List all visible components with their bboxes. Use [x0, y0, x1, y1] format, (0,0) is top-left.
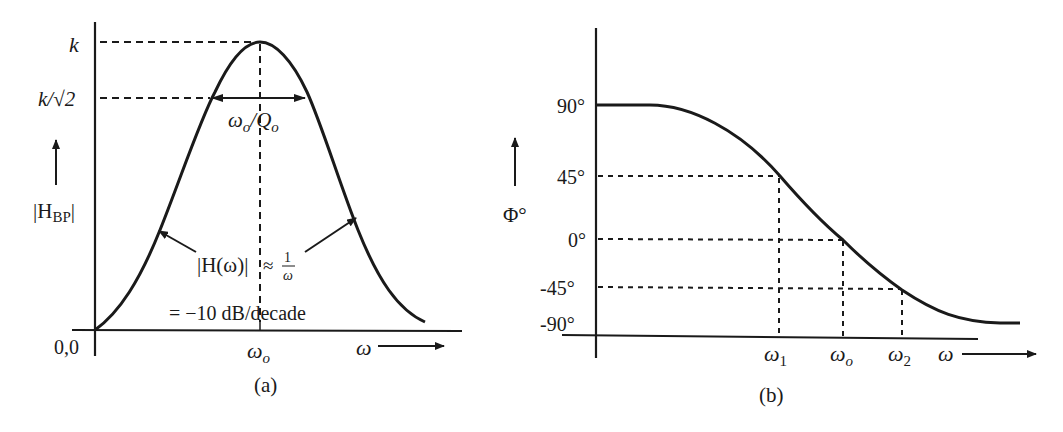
panel-a-slope-formula-denominator: ω — [283, 268, 293, 283]
panel-b-x-axis — [562, 335, 978, 339]
panel-a-tick-k-sqrt2: k/√2 — [38, 87, 76, 111]
panel-b-y-axis-label: Φ° — [503, 203, 527, 227]
panel-b-tick-m45: -45° — [540, 277, 575, 299]
panel-b-caption: (b) — [759, 383, 784, 407]
panel-a-slope-formula-approx: ≈ — [263, 255, 273, 276]
panel-a-y-label: |HBP| — [33, 199, 75, 225]
panel-a-x-axis — [72, 330, 462, 331]
panel-a-right-slope-arrow — [305, 218, 356, 252]
panel-b-x-tick-omega2: ω2 — [888, 341, 911, 369]
panel-a-caption: (a) — [254, 373, 277, 397]
panel-b-x-axis-label: ω — [938, 341, 954, 366]
panel-a-slope-formula: |H(ω)| ≈ 1 ω — [197, 250, 295, 283]
panel-a-bandwidth-label: ωo/Qo — [228, 108, 279, 135]
panel-a-origin-label: 0,0 — [54, 336, 79, 358]
panel-b-m45-dashed-line — [598, 287, 900, 289]
panel-b-tick-90: 90° — [557, 95, 585, 117]
panel-a-x-axis-label: ω — [356, 335, 372, 360]
panel-b-phase: Φ° 90° 45° 0° -45° -90° ω1 ωo ω2 ω (b) — [503, 28, 1036, 407]
panel-b-x-tick-omega1: ω1 — [764, 341, 787, 369]
panel-b-tick-45: 45° — [557, 166, 585, 188]
panel-a-tick-k: k — [69, 32, 80, 57]
panel-a-x-tick-omega-o: ωo — [247, 338, 271, 366]
panel-b-phase-curve — [597, 105, 1020, 323]
panel-a-left-slope-arrow — [159, 231, 196, 252]
panel-a-slope-formula-numerator: 1 — [284, 250, 291, 265]
panel-b-tick-0: 0° — [568, 229, 586, 251]
panel-a-slope-formula-left: |H(ω)| — [197, 253, 248, 277]
panel-b-tick-m90: -90° — [540, 313, 575, 335]
panel-b-x-tick-omegao: ωo — [830, 341, 854, 369]
figure-canvas: k k/√2 |HBP| 0,0 ωo ω ωo/Qo |H(ω)| ≈ 1 ω… — [0, 0, 1063, 432]
panel-a-slope-db: = −10 dB/decade — [169, 302, 306, 324]
panel-b-0-dashed-line — [598, 239, 843, 240]
panel-a-magnitude: k k/√2 |HBP| 0,0 ωo ω ωo/Qo |H(ω)| ≈ 1 ω… — [33, 22, 462, 397]
